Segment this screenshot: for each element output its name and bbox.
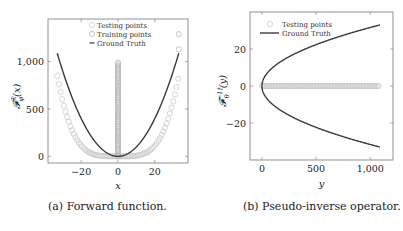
forward-y-axis-label: 𝓕ℛφ(x): [10, 83, 25, 108]
forward-caption: (a) Forward function.: [48, 200, 167, 213]
y-tick-label: 20: [234, 44, 246, 55]
x-tick-label: 20: [149, 166, 161, 177]
legend-ground-truth-label: Ground Truth: [282, 30, 331, 38]
testing-point: [63, 109, 68, 114]
legend-testing-label: Testing points: [282, 21, 332, 29]
forward-marks: [55, 32, 182, 159]
testing-point: [172, 92, 177, 97]
legend-testing-label: Testing points: [97, 22, 147, 30]
legend-ground-truth-label: Ground Truth: [97, 40, 146, 48]
testing-point: [174, 84, 179, 89]
pseudo-inverse-caption: (b) Pseudo-inverse operator.: [243, 200, 401, 213]
testing-point: [61, 103, 66, 108]
testing-point: [65, 114, 70, 119]
y-axis-label-text: 𝓕ℛφ(x): [10, 83, 25, 108]
forward-legend: Testing pointsTraining pointsGround Trut…: [89, 22, 151, 48]
figure: −2002005001,000 Testing pointsTraining p…: [0, 0, 403, 231]
testing-point: [169, 105, 174, 110]
x-tick-label: −20: [71, 166, 91, 177]
x-tick-label: 500: [307, 163, 325, 174]
y-axis-label-text: 𝓕−1†θ(y): [216, 75, 231, 107]
pseudo-inverse-legend: Testing pointsGround Truth: [260, 21, 332, 38]
testing-point: [166, 116, 171, 121]
forward-function-chart: −2002005001,000 Testing pointsTraining p…: [10, 19, 188, 191]
pseudo-inverse-y-axis-label: 𝓕−1†θ(y): [216, 75, 231, 107]
legend-testing-marker: [267, 21, 272, 26]
legend-training-label: Training points: [97, 31, 152, 39]
testing-point: [56, 82, 61, 87]
testing-point: [167, 111, 172, 116]
training-point: [176, 32, 181, 37]
x-tick-label: 0: [259, 163, 265, 174]
pseudo-inverse-chart: 05001,000−20020 Testing pointsGround Tru…: [216, 12, 393, 189]
pseudo-inverse-x-axis-label: y: [318, 178, 325, 189]
y-tick-label: 1,000: [17, 56, 44, 67]
y-tick-label: 500: [26, 104, 44, 115]
testing-point: [58, 89, 63, 94]
training-point: [176, 47, 181, 52]
legend-testing-marker: [89, 22, 94, 27]
pseudo-inverse-marks: [259, 25, 381, 147]
forward-x-axis-label: x: [115, 180, 121, 191]
y-tick-label: 0: [240, 81, 246, 92]
x-tick-label: 1,000: [357, 163, 384, 174]
testing-point: [60, 97, 65, 102]
testing-point: [176, 76, 181, 81]
y-tick-label: 0: [38, 151, 44, 162]
testing-point: [55, 73, 60, 78]
ground-truth-lower-branch: [262, 86, 380, 147]
testing-point: [171, 99, 176, 104]
y-tick-label: −20: [226, 118, 246, 129]
legend-training-marker: [89, 31, 94, 36]
x-tick-label: 0: [115, 166, 121, 177]
